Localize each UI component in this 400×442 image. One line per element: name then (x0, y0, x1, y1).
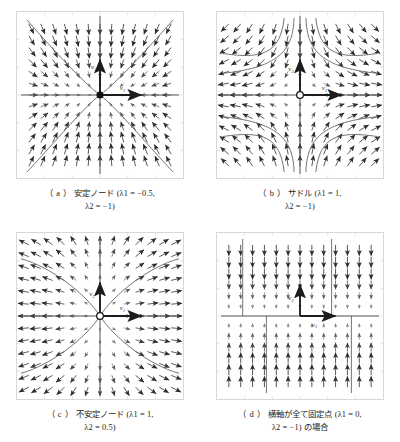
field-arrow (64, 36, 67, 46)
field-arrow (141, 83, 147, 86)
field-arrow (336, 48, 343, 57)
field-arrow (70, 352, 76, 357)
field-arrow (286, 155, 288, 166)
field-arrow (347, 36, 354, 44)
field-arrow (336, 156, 341, 166)
field-arrow (122, 24, 124, 35)
field-arrow (336, 145, 342, 154)
field-arrow (359, 105, 370, 107)
field-arrow (371, 147, 379, 154)
field-arrow (347, 104, 358, 107)
field-arrow (155, 24, 159, 34)
field-arrow (243, 71, 253, 76)
field-arrow (76, 24, 78, 35)
field-arrow (147, 290, 158, 293)
field-arrow (336, 113, 344, 119)
fixed-point-a (96, 91, 103, 98)
field-arrow (336, 134, 343, 143)
caption-b-tag: （ b ） (258, 189, 285, 198)
field-arrow (154, 133, 160, 142)
field-arrow (371, 136, 380, 142)
caption-b: （ b ） サドル (λ1 = 1, λ2 = −1) (205, 188, 395, 213)
field-arrow (220, 48, 229, 54)
field-arrow (273, 156, 276, 166)
field-arrow (133, 156, 136, 167)
field-arrow (85, 262, 88, 268)
field-arrow (347, 83, 358, 86)
field-arrow (120, 103, 124, 107)
field-arrow (258, 134, 265, 143)
field-arrow (371, 105, 382, 107)
plot-a-svg: v2 v1 (17, 12, 183, 178)
plot-c-unstable-node: v2 v1 (16, 232, 184, 400)
field-arrow (88, 24, 89, 35)
field-arrow (246, 146, 253, 154)
field-arrow (53, 113, 59, 119)
field-arrow (256, 113, 264, 119)
field-arrow (286, 24, 288, 35)
field-arrow (18, 352, 29, 355)
field-arrow (112, 363, 115, 369)
field-arrow (171, 265, 181, 268)
field-arrow (124, 352, 130, 357)
field-arrow (30, 290, 41, 292)
field-arrow (70, 303, 76, 305)
field-arrow (111, 132, 112, 143)
field-arrow (171, 328, 182, 329)
field-arrow (42, 290, 53, 293)
caption-a-tag: （ a ） (45, 189, 72, 198)
field-arrow (53, 104, 59, 107)
field-arrow (29, 134, 36, 143)
field-arrow (56, 375, 64, 382)
field-arrow (260, 156, 265, 166)
field-arrow (259, 36, 265, 45)
field-arrow (141, 104, 147, 107)
field-arrow (124, 363, 130, 369)
eigenvector-arrows-d (300, 284, 336, 316)
field-arrow (88, 36, 89, 47)
field-arrow (88, 122, 89, 131)
field-arrow (70, 263, 76, 269)
field-arrow (347, 124, 356, 131)
field-arrow (31, 375, 41, 380)
field-arrow (136, 340, 145, 343)
field-arrow (132, 144, 135, 154)
field-arrow (233, 36, 241, 44)
field-arrow (76, 103, 80, 107)
field-arrow (76, 155, 78, 166)
label-v2-a: v2 (91, 63, 97, 72)
field-arrow (122, 36, 124, 47)
field-arrow (88, 155, 89, 166)
field-arrow (336, 24, 341, 34)
field-arrow (64, 71, 69, 77)
field-arrow (233, 147, 241, 155)
field-arrow (132, 36, 135, 46)
field-arrow (64, 48, 68, 58)
field-arrow (159, 340, 170, 342)
field-arrow (76, 59, 79, 68)
field-arrow (159, 328, 170, 329)
field-arrow (324, 156, 327, 166)
field-arrow (270, 83, 276, 86)
field-arrow (159, 290, 170, 292)
field-arrow (285, 122, 288, 131)
field-arrow (336, 83, 345, 86)
field-arrow (221, 24, 229, 32)
field-arrow (244, 59, 253, 66)
field-arrow (171, 375, 181, 379)
field-arrow (136, 263, 144, 269)
field-arrow (112, 340, 116, 344)
field-arrow (71, 236, 77, 244)
field-arrow (41, 48, 47, 57)
field-arrow (218, 83, 229, 85)
field-arrow (324, 24, 327, 34)
field-arrow (112, 328, 116, 330)
field-arrow (163, 123, 171, 131)
field-arrow (56, 303, 65, 304)
field-arrow (324, 104, 330, 107)
field-arrow (56, 289, 65, 292)
field-arrow (76, 144, 78, 155)
field-arrow (231, 125, 240, 131)
field-arrow (141, 113, 147, 119)
field-arrow (30, 277, 40, 280)
